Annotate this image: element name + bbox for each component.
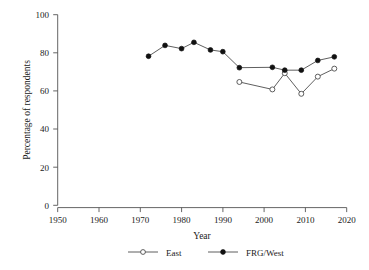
x-axis-ticks: [58, 208, 347, 213]
y-tick-label-60: 60: [40, 86, 50, 96]
y-tick-label-20: 20: [40, 163, 50, 173]
filled-circle-icon: [192, 40, 197, 45]
y-axis-title: Percentage of respondents: [22, 60, 32, 160]
x-tick-label-2010: 2010: [296, 215, 315, 225]
filled-circle-icon: [179, 46, 184, 51]
y-tick-label-40: 40: [40, 124, 50, 134]
x-tick-label-1950: 1950: [49, 215, 68, 225]
legend-label-east: East: [166, 248, 182, 258]
filled-circle-icon: [237, 65, 242, 70]
open-circle-icon: [315, 74, 320, 79]
filled-circle-icon: [220, 49, 225, 54]
y-tick-label-80: 80: [40, 48, 50, 58]
y-axis-ticks: [53, 15, 58, 206]
chart-legend: East FRG/West: [128, 248, 284, 258]
x-tick-label-1970: 1970: [131, 215, 150, 225]
x-tick-label-2000: 2000: [255, 215, 274, 225]
filled-circle-icon: [315, 58, 320, 63]
y-tick-label-0: 0: [45, 201, 50, 211]
filled-circle-icon: [163, 43, 168, 48]
open-circle-icon: [332, 66, 337, 71]
series-frg-west: [146, 40, 337, 73]
x-tick-label-1990: 1990: [214, 215, 233, 225]
x-tick-label-2020: 2020: [338, 215, 357, 225]
filled-circle-icon: [270, 65, 275, 70]
filled-circle-icon: [221, 250, 226, 255]
open-circle-icon: [141, 250, 146, 255]
open-circle-icon: [270, 87, 275, 92]
x-tick-label-1960: 1960: [90, 215, 109, 225]
open-circle-icon: [237, 79, 242, 84]
filled-circle-icon: [146, 54, 151, 59]
y-tick-label-100: 100: [36, 10, 50, 20]
chart-figure: 100 80 60 40 20 0 1950 1960 1970 1980 19…: [0, 0, 369, 270]
line-chart-canvas: 100 80 60 40 20 0 1950 1960 1970 1980 19…: [0, 0, 369, 270]
x-axis-title: Year: [193, 231, 211, 241]
open-circle-icon: [299, 91, 304, 96]
filled-circle-icon: [282, 68, 287, 73]
x-tick-label-1980: 1980: [173, 215, 192, 225]
filled-circle-icon: [332, 54, 337, 59]
filled-circle-icon: [208, 48, 213, 53]
filled-circle-icon: [299, 68, 304, 73]
legend-label-frg-west: FRG/West: [246, 248, 284, 258]
series-layer: [146, 40, 337, 96]
